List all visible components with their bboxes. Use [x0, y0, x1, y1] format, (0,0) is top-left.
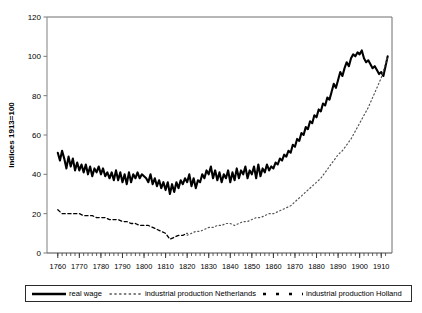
- legend-item-industrial-production-netherlands: industrial production Netherlands: [109, 289, 256, 299]
- x-tick-label: 1830: [200, 262, 216, 271]
- y-tick-label: 40: [32, 170, 41, 179]
- x-tick-label: 1780: [93, 262, 109, 271]
- x-tick-label: 1910: [373, 262, 389, 271]
- legend-marker-dashed-line: [262, 289, 304, 299]
- legend-item-industrial-production-holland: industrial production Holland: [262, 289, 402, 299]
- x-tick-label: 1890: [330, 262, 346, 271]
- legend-label-industrial-production-holland: industrial production Holland: [306, 289, 402, 298]
- chart-figure: Indices 1913=100 020406080100120 1760177…: [0, 0, 422, 313]
- legend-label-industrial-production-netherlands: industrial production Netherlands: [145, 289, 256, 298]
- y-tick-label: 100: [28, 52, 42, 61]
- x-tick-label: 1880: [308, 262, 324, 271]
- legend-marker-solid-line: [30, 289, 68, 299]
- legend-marker-dotted-line: [109, 289, 143, 299]
- legend-item-real-wage: real wage: [30, 289, 102, 299]
- x-tick-label: 1800: [136, 262, 152, 271]
- x-tick-label: 1810: [157, 262, 173, 271]
- legend-box: real wage industrial production Netherla…: [25, 285, 412, 302]
- y-tick-label: 60: [32, 131, 41, 140]
- x-tick-label: 1850: [244, 262, 260, 271]
- x-tick-label: 1870: [287, 262, 303, 271]
- y-tick-label: 0: [37, 249, 42, 258]
- y-axis-title-text: Indices 1913=100: [7, 102, 16, 168]
- y-tick-label: 20: [32, 210, 41, 219]
- x-tick-label: 1860: [265, 262, 281, 271]
- x-tick-label: 1900: [351, 262, 367, 271]
- y-tick-label: 80: [32, 92, 41, 101]
- y-tick-label: 120: [28, 13, 42, 22]
- x-tick-label: 1790: [114, 262, 130, 271]
- x-tick-label: 1820: [179, 262, 195, 271]
- y-axis-title: Indices 1913=100: [7, 102, 16, 168]
- x-tick-label: 1770: [71, 262, 87, 271]
- x-tick-label: 1760: [50, 262, 66, 271]
- x-tick-label: 1840: [222, 262, 238, 271]
- legend-label-real-wage: real wage: [69, 289, 102, 298]
- line-chart: Indices 1913=100 020406080100120 1760177…: [0, 0, 422, 313]
